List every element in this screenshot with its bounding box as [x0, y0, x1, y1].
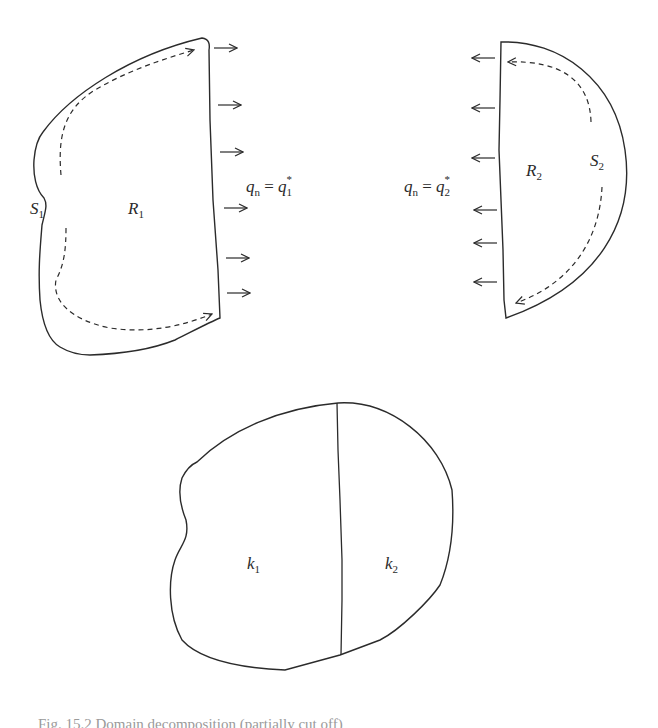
s2-contour-top [508, 62, 591, 122]
s1-contour-top [60, 50, 194, 175]
region-r1-label: R1 [128, 200, 144, 220]
flux-arrows-inward [472, 58, 497, 282]
flux-condition-q1-label: qn = q*1 [246, 178, 292, 198]
region-r2-label: R2 [526, 162, 542, 182]
material-interface-line [337, 403, 342, 655]
diagram-canvas [0, 0, 658, 728]
s2-contour-bottom [516, 187, 602, 303]
flux-arrows-outward [214, 48, 250, 293]
s1-contour-bottom [55, 228, 212, 330]
domain-decomposition-figure: S1 R1 qn = q*1 qn = q*2 R2 S2 k1 k2 Fig.… [0, 0, 658, 728]
boundary-s1-label: S1 [30, 200, 44, 220]
flux-condition-q2-label: qn = q*2 [404, 178, 450, 198]
conductivity-k1-label: k1 [247, 555, 260, 575]
combined-domain-boundary [170, 403, 452, 670]
conductivity-k2-label: k2 [385, 555, 398, 575]
region-r2-boundary [499, 42, 627, 318]
figure-caption: Fig. 15.2 Domain decomposition (partiall… [38, 716, 343, 728]
region-r1-boundary [34, 38, 220, 355]
boundary-s2-label: S2 [590, 152, 604, 172]
